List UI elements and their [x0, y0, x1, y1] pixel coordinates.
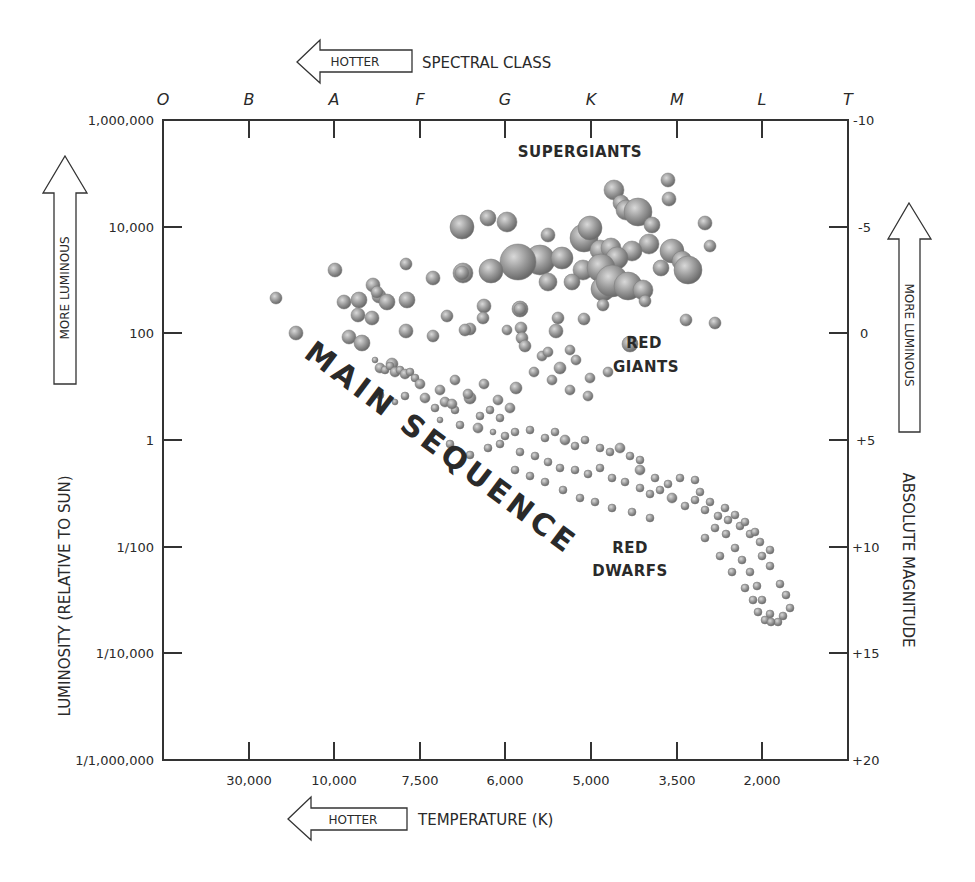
star-point — [746, 568, 754, 576]
star-point — [351, 308, 365, 322]
star-point — [674, 256, 702, 284]
star-point — [455, 266, 469, 280]
star-point — [701, 506, 709, 514]
star-point — [636, 484, 644, 492]
star-point — [552, 312, 564, 324]
star-point — [711, 524, 719, 532]
star-point — [756, 538, 764, 546]
star-point — [564, 274, 580, 290]
star-point — [696, 488, 704, 496]
star-point — [399, 292, 415, 308]
star-point — [450, 375, 460, 385]
temperature-title: TEMPERATURE (K) — [417, 811, 553, 829]
star-point — [497, 212, 517, 232]
star-point — [621, 478, 629, 486]
star-point — [526, 426, 534, 434]
star-point — [676, 474, 684, 482]
star-point — [722, 530, 730, 538]
star-point — [571, 466, 579, 474]
temp-tick-30000: 30,000 — [226, 773, 272, 788]
label-supergiants: SUPERGIANTS — [518, 143, 642, 161]
magnitude-tick-labels: -10 -5 0 +5 +10 +15 +20 — [852, 113, 879, 768]
star-point — [447, 399, 457, 409]
star-point — [526, 472, 534, 480]
star-point — [578, 313, 590, 325]
star-point — [441, 310, 453, 322]
star-point — [646, 490, 654, 498]
star-point — [724, 516, 732, 524]
star-point — [597, 299, 609, 311]
lum-tick-1e2: 100 — [129, 326, 154, 341]
star-point — [351, 292, 367, 308]
star-point — [554, 362, 566, 374]
left-more-luminous-arrow: MORE LUMINOUS — [43, 156, 87, 384]
star-point — [709, 317, 721, 329]
star-point — [608, 504, 616, 512]
hr-diagram: HOTTER SPECTRAL CLASS O B A F G K M L T … — [0, 0, 975, 882]
star-point — [372, 357, 378, 363]
star-point — [450, 215, 474, 239]
class-k: K — [586, 90, 598, 109]
star-point — [544, 458, 552, 466]
star-point — [628, 508, 636, 516]
luminosity-title: LUMINOSITY (RELATIVE TO SUN) — [56, 476, 74, 717]
star-point — [662, 192, 676, 206]
star-point — [541, 228, 555, 242]
top-hotter-arrow: HOTTER — [297, 40, 412, 83]
temp-tick-7500: 7,500 — [401, 773, 438, 788]
star-point — [477, 312, 489, 324]
temp-tick-2000: 2,000 — [743, 773, 780, 788]
star-point — [691, 496, 699, 504]
star-point — [337, 295, 351, 309]
label-red-dwarfs-line1: RED — [612, 539, 648, 557]
star-point — [565, 345, 575, 355]
star-point — [584, 470, 592, 478]
star-point — [653, 260, 669, 276]
star-point — [698, 216, 712, 230]
star-point — [615, 443, 625, 453]
temp-tick-6000: 6,000 — [486, 773, 523, 788]
star-point — [547, 375, 557, 385]
star-point — [728, 568, 736, 576]
right-arrow-label: MORE LUMINOUS — [902, 283, 916, 386]
star-point — [551, 428, 559, 436]
mag-tick-m10: -10 — [853, 113, 874, 128]
star-point — [731, 511, 739, 519]
class-m: M — [670, 90, 684, 109]
star-point — [754, 608, 762, 616]
star-point — [463, 389, 473, 399]
star-point — [510, 382, 522, 394]
star-point — [664, 480, 672, 488]
star-point — [496, 440, 504, 448]
label-red-giants-line1: RED — [626, 334, 662, 352]
star-point — [753, 582, 761, 590]
star-point — [786, 604, 794, 612]
star-point — [435, 385, 445, 395]
star-point — [479, 259, 503, 283]
star-point — [636, 456, 644, 464]
star-point — [289, 326, 303, 340]
temp-tick-3500: 3,500 — [658, 773, 695, 788]
spectral-class-title: SPECTRAL CLASS — [422, 54, 551, 72]
mag-tick-p10: +10 — [852, 540, 879, 555]
mag-tick-0: 0 — [860, 326, 868, 341]
star-point — [639, 295, 651, 307]
spectral-class-labels: O B A F G K M L T — [157, 90, 854, 109]
star-point — [519, 340, 531, 352]
star-point — [529, 367, 539, 377]
lum-tick-1: 1 — [146, 433, 154, 448]
star-point — [479, 379, 489, 389]
star-point — [541, 478, 549, 486]
star-point — [583, 391, 593, 401]
right-more-luminous-arrow: MORE LUMINOUS — [888, 203, 931, 432]
star-point — [551, 247, 573, 269]
mag-tick-p20: +20 — [852, 753, 879, 768]
star-point — [400, 258, 412, 270]
star-point — [571, 442, 579, 450]
star-point — [541, 434, 549, 442]
bottom-arrow-label: HOTTER — [329, 813, 378, 827]
star-point — [493, 395, 503, 405]
star-point — [556, 464, 564, 472]
star-point — [565, 385, 575, 395]
star-point — [704, 240, 716, 252]
